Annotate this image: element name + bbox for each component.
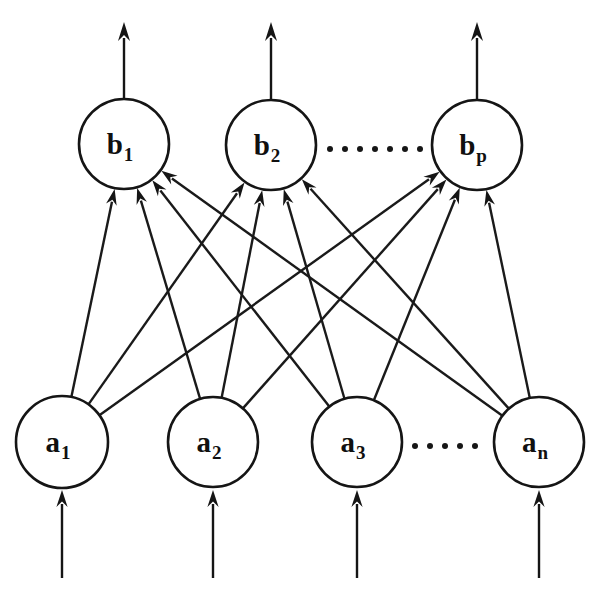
node-label-base-b2: b [254, 129, 270, 161]
output-ellipsis-dot-3 [357, 146, 363, 152]
edge-a1-to-b1 [71, 202, 112, 397]
output-ellipsis-dot-2 [342, 146, 348, 152]
node-a3[interactable]: a3 [312, 397, 402, 487]
node-label-base-a1: a [46, 426, 61, 458]
input-ellipsis-dot-5 [472, 443, 478, 449]
output-ellipsis-dot-1 [327, 146, 333, 152]
edge-a3-to-bp [374, 200, 455, 401]
node-label-subscript-b2: 2 [271, 145, 281, 166]
network-diagram: b1b2bpa1a2a3an [0, 0, 606, 590]
arrowhead-an-to-b1 [161, 171, 177, 185]
edge-a1-to-b2 [88, 193, 237, 404]
node-a2[interactable]: a2 [168, 397, 258, 487]
connection-edges [71, 171, 529, 416]
edge-a2-to-b2 [222, 203, 260, 398]
output-ellipsis-dot-6 [402, 146, 408, 152]
node-label-subscript-an: n [537, 442, 548, 463]
input-ellipsis-dot-4 [457, 443, 463, 449]
node-label-subscript-bp: p [476, 145, 487, 166]
edge-a3-to-b1 [160, 190, 329, 406]
input-ellipsis [412, 443, 478, 449]
arrowhead-a1-to-b2 [231, 183, 245, 199]
network-nodes: b1b2bpa1a2a3an [16, 99, 584, 488]
input-ellipsis-dot-3 [442, 443, 448, 449]
arrowhead-a1-to-bp [423, 172, 439, 186]
node-label-base-a3: a [341, 426, 356, 458]
output-ellipsis [327, 146, 423, 152]
input-ellipsis-dot-1 [412, 443, 418, 449]
network-canvas: b1b2bpa1a2a3an [0, 0, 606, 590]
node-label-base-an: a [522, 426, 537, 458]
node-b2[interactable]: b2 [226, 100, 316, 190]
node-label-base-bp: b [459, 129, 475, 161]
node-label-subscript-b1: 1 [124, 144, 134, 165]
node-label-base-a2: a [197, 426, 212, 458]
output-ellipsis-dot-7 [417, 146, 423, 152]
edge-a1-to-bp [99, 179, 429, 415]
node-label-subscript-a3: 3 [356, 442, 366, 463]
node-a1[interactable]: a1 [16, 396, 108, 488]
node-bp[interactable]: bp [432, 100, 522, 190]
node-b1[interactable]: b1 [79, 99, 169, 189]
output-ellipsis-dot-4 [372, 146, 378, 152]
edge-an-to-bp [489, 203, 530, 398]
node-an[interactable]: an [494, 397, 584, 487]
node-label-subscript-a1: 1 [61, 442, 71, 463]
node-label-base-b1: b [107, 128, 123, 160]
node-label-subscript-a2: 2 [212, 442, 222, 463]
output-ellipsis-dot-5 [387, 146, 393, 152]
edge-a3-to-b2 [287, 202, 344, 399]
edge-an-to-b1 [172, 178, 503, 415]
input-ellipsis-dot-2 [427, 443, 433, 449]
